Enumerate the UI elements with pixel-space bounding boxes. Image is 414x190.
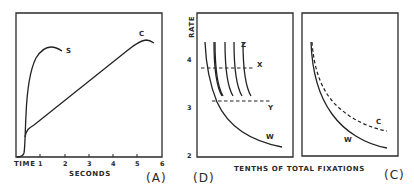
label-x: X [257, 61, 263, 69]
tick-y-2: 2 [187, 152, 192, 160]
panel-label-a: (A) [146, 171, 167, 185]
tick-2: 2 [63, 160, 68, 168]
curve-c-linear [25, 40, 154, 137]
label-rate: RATE [188, 16, 196, 38]
panel-label-d: (D) [193, 171, 215, 185]
panel-label-c: (C) [384, 168, 405, 182]
tick-4: 4 [111, 160, 116, 168]
curve-z-3 [225, 42, 233, 96]
curve-z-2 [215, 42, 223, 96]
panel-a: S C TIME 1 2 3 4 5 6 SECONDS (A) [14, 13, 167, 185]
label-time: TIME [14, 160, 36, 168]
curve-w-c [311, 42, 387, 148]
label-seconds: SECONDS [69, 170, 111, 178]
label-tenths-fixations: TENTHS OF TOTAL FIXATIONS [234, 165, 365, 173]
curve-z-4 [234, 42, 242, 96]
label-z: Z [241, 41, 246, 49]
label-c-c: C [376, 118, 381, 126]
label-y: Y [267, 104, 274, 112]
curve-s [17, 47, 62, 157]
figure: S C TIME 1 2 3 4 5 6 SECONDS (A) RATE 4 … [0, 0, 414, 190]
panel-c-frame [302, 13, 398, 156]
label-c: C [139, 30, 144, 38]
tick-3: 3 [87, 160, 92, 168]
label-s: S [66, 47, 71, 55]
tick-5: 5 [135, 160, 140, 168]
label-w-d: W [266, 133, 274, 141]
tick-1: 1 [38, 160, 43, 168]
tick-6: 6 [160, 160, 165, 168]
label-w-c: W [344, 136, 352, 144]
curve-z-5 [243, 42, 251, 96]
panel-d: RATE 4 3 2 Z X Y W (D) [187, 13, 293, 185]
tick-y-3: 3 [187, 104, 192, 112]
panel-c: C W (C) [302, 13, 405, 182]
tick-y-4: 4 [187, 56, 192, 64]
